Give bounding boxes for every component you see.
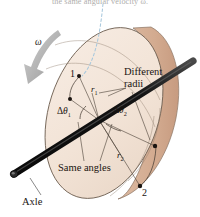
point-1-label: 1 bbox=[70, 69, 75, 80]
radius-1-label: r1 bbox=[91, 85, 98, 96]
point-2-label: 2 bbox=[142, 188, 147, 199]
marker-point-1-start bbox=[77, 74, 81, 78]
different-radii-line-1: Different bbox=[124, 66, 162, 78]
figure-graphics bbox=[0, 0, 200, 217]
different-radii-annotation: Different radii bbox=[124, 66, 162, 89]
axle-label-leader bbox=[30, 178, 41, 195]
radius-2-subscript: 2 bbox=[121, 155, 124, 162]
marker-point-1-end bbox=[68, 97, 72, 101]
theta-2-subscript: 2 bbox=[124, 110, 127, 117]
same-angles-annotation: Same angles bbox=[58, 162, 111, 173]
different-radii-line-2: radii bbox=[124, 78, 162, 90]
rotating-disk-figure: the same angular velocity ω. bbox=[0, 0, 200, 217]
radius-2-label: r2 bbox=[117, 151, 124, 162]
theta-1-subscript: 1 bbox=[68, 111, 71, 118]
marker-point-2-start bbox=[153, 144, 157, 148]
delta-theta-1-label: Δθ1 bbox=[57, 107, 71, 118]
delta-theta-2-label: Δθ2 bbox=[113, 106, 127, 117]
axle-label: Axle bbox=[22, 196, 42, 207]
omega-rotation-arrow bbox=[24, 30, 61, 84]
omega-symbol-label: ω bbox=[35, 38, 42, 48]
radius-1-subscript: 1 bbox=[95, 89, 98, 96]
